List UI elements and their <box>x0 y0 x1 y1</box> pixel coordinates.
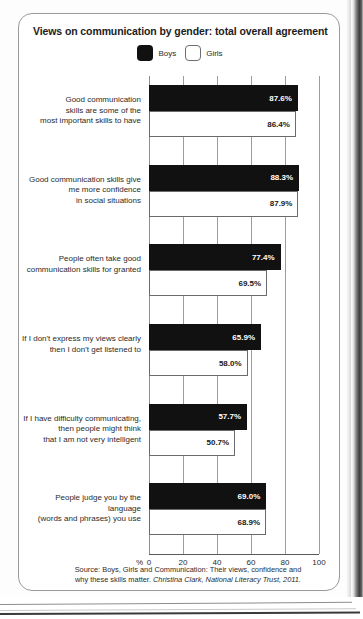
category-label: If I don't express my views clearlythen … <box>21 334 141 355</box>
source-note: Source: Boys, Girls and Communication: T… <box>51 565 325 585</box>
bar-girls: 86.4% <box>149 111 296 137</box>
legend-label-girls: Girls <box>206 49 222 58</box>
gridline-100 <box>319 76 320 554</box>
bar-group: People judge you by the language(words a… <box>149 483 319 551</box>
bar-boys: 69.0% <box>149 483 266 509</box>
bar-group: People often take goodcommunication skil… <box>149 244 319 312</box>
bar-group: Good communication skills giveme more co… <box>149 165 319 233</box>
bar-value-label: 69.5% <box>238 279 266 288</box>
bar-boys: 65.9% <box>149 324 261 350</box>
bar-boys: 88.3% <box>149 165 299 191</box>
chart-card: Views on communication by gender: total … <box>18 13 340 591</box>
bar-value-label: 57.7% <box>218 412 246 421</box>
page-edge-line-2 <box>0 608 356 611</box>
page-edge-bottom <box>0 597 363 619</box>
bar-value-label: 87.6% <box>269 94 297 103</box>
bar-value-label: 88.3% <box>270 173 298 182</box>
category-label: If I have difficulty communicating,then … <box>21 414 141 446</box>
source-line-2-italic: Christina Clark, National Literacy Trust… <box>153 575 301 584</box>
category-label: Good communicationskills are some of the… <box>21 95 141 127</box>
source-line-2-plain: why these skills matter. <box>75 575 153 584</box>
bar-value-label: 58.0% <box>219 359 247 368</box>
bar-girls: 50.7% <box>149 430 235 456</box>
chart-plot-area: Good communicationskills are some of the… <box>149 76 319 554</box>
bar-group: If I have difficulty communicating,then … <box>149 404 319 472</box>
plot-inner: Good communicationskills are some of the… <box>149 76 319 554</box>
legend-item-boys: Boys <box>137 45 176 61</box>
filled-square-icon <box>137 45 153 61</box>
bar-boys: 87.6% <box>149 85 298 111</box>
category-label: People judge you by the language(words a… <box>21 493 141 525</box>
page-edge-line-3 <box>0 611 360 615</box>
bar-group: Good communicationskills are some of the… <box>149 85 319 153</box>
legend-label-boys: Boys <box>158 49 176 58</box>
bar-boys: 77.4% <box>149 244 281 270</box>
bar-girls: 87.9% <box>149 191 298 217</box>
bar-value-label: 69.0% <box>238 492 266 501</box>
bar-boys: 57.7% <box>149 404 247 430</box>
page-edge-shadow <box>351 0 363 604</box>
category-label: People often take goodcommunication skil… <box>21 254 141 275</box>
outlined-square-icon <box>185 45 201 61</box>
bar-value-label: 50.7% <box>207 438 235 447</box>
category-label: Good communication skills giveme more co… <box>21 175 141 207</box>
source-line-1: Source: Boys, Girls and Communication: T… <box>75 565 302 574</box>
page-edge-line-1 <box>0 602 352 605</box>
bar-value-label: 77.4% <box>252 253 280 262</box>
chart-legend: Boys Girls <box>19 45 341 61</box>
bar-girls: 68.9% <box>149 509 266 535</box>
bar-girls: 58.0% <box>149 350 248 376</box>
bar-girls: 69.5% <box>149 270 267 296</box>
bar-value-label: 86.4% <box>267 120 295 129</box>
bar-value-label: 65.9% <box>232 333 260 342</box>
page-title: Views on communication by gender: total … <box>33 25 328 37</box>
legend-item-girls: Girls <box>185 45 222 61</box>
bar-value-label: 68.9% <box>237 518 265 527</box>
bar-value-label: 87.9% <box>270 199 298 208</box>
bar-group: If I don't express my views clearlythen … <box>149 324 319 392</box>
x-axis-line <box>149 554 319 555</box>
